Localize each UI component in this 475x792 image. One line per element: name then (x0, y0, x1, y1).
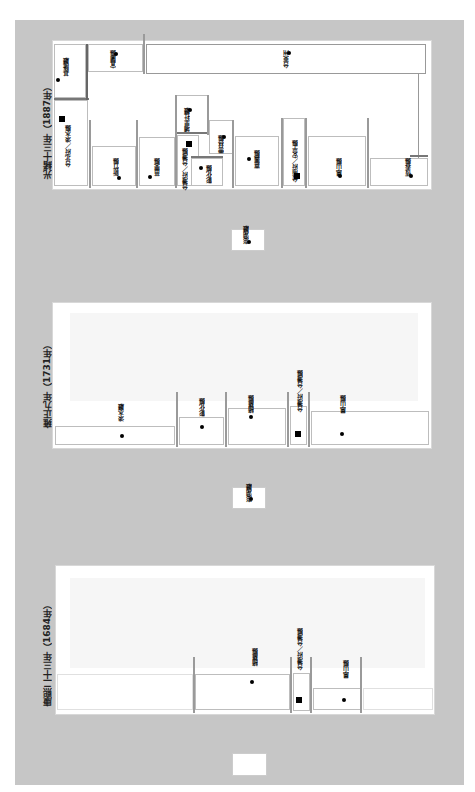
seat-dot (199, 166, 203, 170)
boundary-line (410, 155, 428, 157)
division-label: 新竹縣 (111, 158, 120, 176)
seat-dot (247, 240, 251, 244)
division-zhuluo-north (57, 674, 193, 710)
division-label: 台灣府／台灣縣 (295, 370, 304, 412)
seat-dot (222, 135, 226, 139)
division-changhua-1731 (179, 417, 224, 445)
division-label: 基隆廳 (61, 58, 70, 76)
boundary-line (290, 657, 292, 713)
panel-title-1684: 康熙二十三年（1684年） (40, 600, 53, 706)
division-label: 台灣府／台灣縣 (180, 148, 189, 190)
seat-dot (114, 52, 118, 56)
seat-dot (342, 698, 346, 702)
seat-dot (120, 434, 124, 438)
boundary-line (418, 74, 419, 158)
division-keelung (54, 44, 86, 98)
seat-dot (247, 157, 251, 161)
seat-dot (250, 680, 254, 684)
boundary-line (143, 34, 145, 74)
seat-dot (249, 497, 253, 501)
division-taiwan-fu-1684 (293, 673, 310, 711)
division-label: 台灣府／台灣縣 (295, 628, 304, 670)
division-label: 鳳山縣 (338, 395, 347, 413)
seat-dot (56, 78, 60, 82)
boundary-line (360, 657, 362, 713)
sea-area (70, 578, 425, 668)
division-hengchun (370, 158, 428, 186)
boundary-line (176, 392, 178, 447)
division-label: 彰化縣 (204, 165, 213, 183)
division-label: 彰化縣 (197, 398, 206, 416)
boundary-line (308, 392, 310, 447)
seat-dot (148, 175, 152, 179)
offshore-placeholder-1684 (232, 753, 267, 776)
seat-dot (188, 108, 192, 112)
division-label: 嘉義縣 (252, 150, 261, 168)
boundary-line (310, 657, 312, 713)
seat-dot (409, 174, 413, 178)
division-fengshan-1731 (311, 411, 429, 445)
division-label: 諸羅縣 (246, 395, 255, 413)
division-label: 諸羅縣 (250, 648, 259, 666)
seat-dot (200, 425, 204, 429)
boundary-line (367, 118, 369, 188)
capital-marker (295, 431, 301, 437)
division-label: 鳳山縣 (341, 660, 350, 678)
division-zhuluo-1731 (228, 408, 286, 445)
seat-dot (249, 415, 253, 419)
division-label: 台北府／淡水縣 (63, 125, 72, 167)
division-fengshan-1684 (313, 688, 361, 710)
boundary-line (136, 120, 138, 188)
boundary-line (176, 132, 208, 134)
division-zhuluo-1684 (195, 674, 290, 710)
boundary-line (89, 120, 91, 188)
seat-dot (117, 176, 121, 180)
division-fengshan-south (363, 688, 433, 710)
division-label: 淡水廳 (116, 404, 125, 422)
boundary-line (232, 120, 234, 188)
boundary-line (305, 118, 307, 188)
seat-dot (287, 51, 291, 55)
division-tamsui (55, 426, 175, 445)
division-puli (176, 95, 208, 133)
capital-marker (186, 141, 192, 147)
sea-area (70, 313, 418, 401)
boundary-line (287, 392, 289, 447)
boundary-line (191, 156, 223, 158)
capital-marker (294, 173, 300, 179)
capital-marker (59, 116, 65, 122)
division-label: 苗栗縣 (152, 158, 161, 176)
boundary-line (225, 392, 227, 447)
seat-dot (338, 174, 342, 178)
capital-marker (296, 697, 302, 703)
seat-dot (340, 432, 344, 436)
